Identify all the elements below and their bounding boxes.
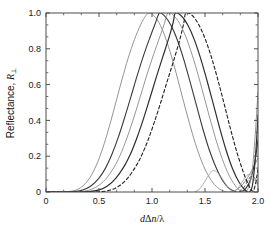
x-tick-label: 1.0 — [146, 196, 159, 206]
reflectance-chart: 00.51.01.52.0 00.20.40.60.81.0 dΔn/λ Ref… — [0, 0, 270, 229]
y-axis-title-text: Reflectance, — [5, 80, 16, 138]
x-tick-label: 1.5 — [199, 196, 212, 206]
figure-container: 00.51.01.52.0 00.20.40.60.81.0 dΔn/λ Ref… — [0, 0, 270, 229]
y-axis-title-perp: ⊥ — [10, 68, 17, 74]
y-axis-title: Reflectance, R⊥ — [5, 68, 17, 138]
y-tick-label: 0.8 — [28, 44, 41, 54]
x-tick-label: 2.0 — [252, 196, 265, 206]
y-tick-label: 0.6 — [28, 80, 41, 90]
x-axis-title: dΔn/λ — [140, 213, 164, 224]
x-axis-title-lambda: λ — [159, 213, 164, 224]
y-tick-label: 1.0 — [28, 8, 41, 18]
x-tick-label: 0 — [43, 196, 48, 206]
y-tick-label: 0.4 — [28, 116, 41, 126]
y-axis-title-R: R — [5, 74, 16, 81]
y-tick-label: 0.2 — [28, 151, 41, 161]
y-tick-label: 0 — [36, 187, 41, 197]
x-tick-label: 0.5 — [93, 196, 106, 206]
